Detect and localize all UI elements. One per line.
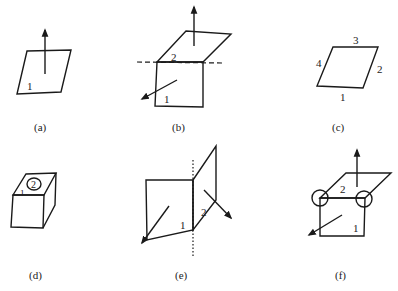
caption-a: (a) xyxy=(34,121,47,134)
face-1-parallelogram xyxy=(17,50,71,94)
figure-canvas: 1 (a) 2 1 (b) 3 2 4 1 (c) 2 1 (d) xyxy=(0,0,398,291)
caption-d: (d) xyxy=(29,269,42,282)
caption-b: (b) xyxy=(172,121,185,134)
face-2-parallelogram xyxy=(320,173,391,198)
normal-arrow-left-icon xyxy=(142,80,177,99)
face-1-panel xyxy=(146,180,193,240)
face-parallelogram xyxy=(317,47,378,88)
edge-2-label: 2 xyxy=(377,63,383,75)
hinge-dashed-line xyxy=(137,62,222,63)
face-2-label: 2 xyxy=(340,183,346,195)
cube-front-face xyxy=(11,195,44,228)
face-1-label: 1 xyxy=(180,219,186,231)
edge-4-label: 4 xyxy=(316,57,322,69)
caption-f: (f) xyxy=(335,269,346,282)
panel-f: 2 1 (f) xyxy=(309,150,391,282)
panel-a: 1 (a) xyxy=(17,30,71,134)
edge-3-label: 3 xyxy=(353,34,359,46)
caption-c: (c) xyxy=(332,121,345,134)
panel-e: 1 2 (e) xyxy=(142,146,231,282)
face-1-label: 1 xyxy=(353,222,359,234)
panel-c: 3 2 4 1 (c) xyxy=(316,34,383,134)
panel-b: 2 1 (b) xyxy=(137,7,231,134)
normal-arrow-right-icon xyxy=(204,190,231,218)
edge-1-label: 1 xyxy=(340,91,346,103)
caption-e: (e) xyxy=(175,269,188,282)
cube-side-face xyxy=(43,173,56,228)
face-2-label: 2 xyxy=(171,51,177,63)
normal-arrow-left-icon xyxy=(309,215,342,235)
face-1-label: 1 xyxy=(27,80,33,92)
face-1-label: 1 xyxy=(164,93,170,105)
panel-d: 2 1 (d) xyxy=(11,173,56,282)
face-2-label: 2 xyxy=(201,206,207,218)
face-1-square xyxy=(155,62,203,107)
face-1-label: 1 xyxy=(20,188,25,198)
face-2-label: 2 xyxy=(31,179,36,190)
corner-circle-right-icon xyxy=(356,191,372,207)
